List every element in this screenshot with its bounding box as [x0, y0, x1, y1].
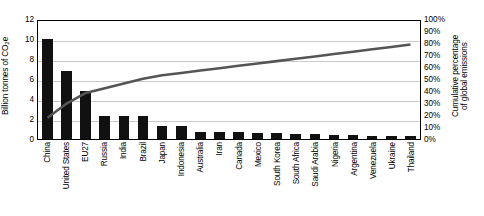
y-axis-right-tick-label: 20% [424, 111, 440, 120]
category-slot: Argentina [344, 142, 363, 216]
x-axis-tick-label: Ukraine [388, 142, 397, 169]
x-axis-tick-label: Japan [157, 142, 166, 164]
category-slot: Brazil [133, 142, 152, 216]
category-slot: South Korea [267, 142, 286, 216]
x-axis-tick-label: India [119, 142, 128, 159]
plot-area [37, 20, 421, 140]
y-axis-right-title-line2: of global emissions [461, 8, 470, 144]
y-axis-right-tick-label: 0% [424, 135, 436, 144]
y-axis-left-tick-label: 6 [29, 75, 34, 84]
category-slot: Japan [152, 142, 171, 216]
x-axis-tick-label: South Korea [273, 142, 282, 186]
pareto-chart: Billion tonnes of CO2e Cumulative percen… [0, 0, 484, 216]
category-slot: Venezuela [363, 142, 382, 216]
x-axis-tick-label: Russia [100, 142, 109, 166]
category-slot: South Africa [287, 142, 306, 216]
x-axis-tick-label: EU27 [81, 142, 90, 162]
category-slot: India [114, 142, 133, 216]
category-slot: United States [56, 142, 75, 216]
y-axis-left-title-text: Billion tonnes of CO [1, 45, 10, 115]
x-axis-tick-label: United States [61, 142, 70, 189]
y-axis-right-tick-label: 80% [424, 39, 440, 48]
y-axis-left-title-subscript: 2 [3, 41, 10, 44]
x-axis-tick-label: Saudi Arabia [311, 142, 320, 187]
x-axis-tick-label: Iran [215, 142, 224, 156]
y-axis-right-tick-label: 60% [424, 63, 440, 72]
y-axis-left-title: Billion tonnes of CO2e [2, 14, 13, 138]
y-axis-right-tick-label: 90% [424, 27, 440, 36]
cumulative-line-svg [38, 21, 420, 139]
y-axis-left-tick-label: 2 [29, 115, 34, 124]
y-axis-right-title-line1: Cumulative percentage [451, 35, 460, 117]
y-axis-left-ticks: 121086420 [13, 0, 34, 216]
x-axis-tick-label: Brazil [138, 142, 147, 162]
x-axis-category-labels: ChinaUnited StatesEU27RussiaIndiaBrazilJ… [37, 142, 421, 216]
x-axis-tick-label: Venezuela [369, 142, 378, 179]
category-slot: Mexico [248, 142, 267, 216]
x-axis-tick-label: Thailand [407, 142, 416, 172]
x-axis-tick-label: Argentina [349, 142, 358, 176]
category-slot: Australia [191, 142, 210, 216]
category-slot: Ukraine [383, 142, 402, 216]
y-axis-right-tick-label: 100% [424, 15, 445, 24]
category-slot: Thailand [402, 142, 421, 216]
category-slot: EU27 [75, 142, 94, 216]
cumulative-line-path [48, 45, 411, 118]
x-axis-tick-label: Nigeria [330, 142, 339, 167]
y-axis-right-ticks: 100%90%80%70%60%50%40%30%20%10%0% [424, 0, 452, 216]
category-slot: Indonesia [171, 142, 190, 216]
y-axis-left-tick-label: 8 [29, 55, 34, 64]
category-slot: Iran [210, 142, 229, 216]
y-axis-left-tick-label: 12 [25, 15, 34, 24]
y-axis-right-tick-label: 70% [424, 51, 440, 60]
y-axis-right-tick-label: 50% [424, 75, 440, 84]
category-slot: Canada [229, 142, 248, 216]
x-axis-tick-label: Mexico [253, 142, 262, 167]
y-axis-left-title-suffix: e [1, 37, 10, 41]
y-axis-left-tick-label: 10 [25, 35, 34, 44]
y-axis-right-title: Cumulative percentageof global emissions [452, 8, 476, 144]
y-axis-left-tick-label: 4 [29, 95, 34, 104]
y-axis-right-tick-label: 40% [424, 87, 440, 96]
category-slot: Russia [95, 142, 114, 216]
x-axis-tick-label: South Africa [292, 142, 301, 184]
y-axis-left-tick-label: 0 [29, 135, 34, 144]
y-axis-right-tick-label: 30% [424, 99, 440, 108]
x-axis-tick-label: Indonesia [177, 142, 186, 176]
x-axis-tick-label: Canada [234, 142, 243, 170]
category-slot: China [37, 142, 56, 216]
category-slot: Nigeria [325, 142, 344, 216]
category-slot: Saudi Arabia [306, 142, 325, 216]
x-axis-tick-label: China [42, 142, 51, 163]
x-axis-tick-label: Australia [196, 142, 205, 173]
cumulative-line-series [38, 21, 420, 139]
y-axis-right-tick-label: 10% [424, 123, 440, 132]
